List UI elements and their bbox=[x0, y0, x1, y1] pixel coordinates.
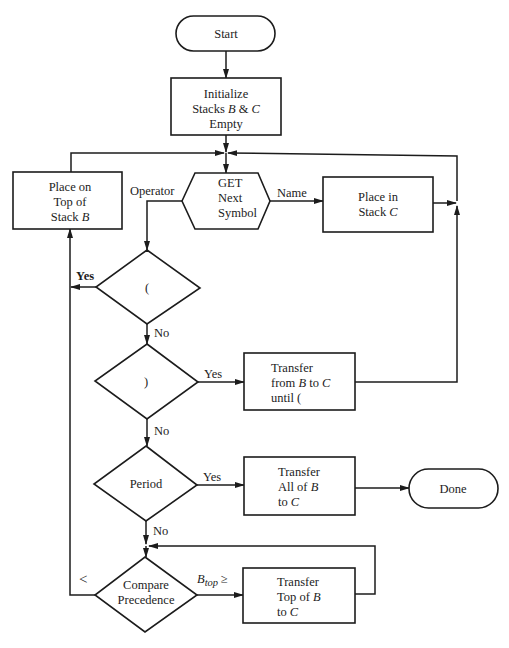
node-done-label: Done bbox=[439, 482, 467, 496]
edge-get-openparen bbox=[147, 201, 182, 250]
node-get-next-symbol: GETNextSymbol bbox=[182, 173, 270, 229]
edge-label-operator: Operator bbox=[130, 184, 175, 198]
node-decision-period: Period bbox=[94, 446, 197, 521]
node-period-label: Period bbox=[130, 477, 163, 491]
label-line-1-seg-2: & bbox=[236, 102, 252, 116]
edge-label-close-no: No bbox=[154, 424, 169, 438]
label-line-1-seg-0: from bbox=[271, 376, 298, 390]
node-transfer-until: Transferfrom B to Cuntil ( bbox=[244, 353, 355, 410]
label-line-2-seg-1: B bbox=[82, 210, 90, 224]
label-line-2-seg-0: to bbox=[277, 605, 290, 619]
btop-op: ≥ bbox=[221, 572, 228, 586]
label-line-0-seg-0: Place on bbox=[49, 180, 92, 194]
node-placeb-label: Place onTop ofStack B bbox=[49, 180, 92, 224]
label-line-1-seg-0: Top of bbox=[277, 590, 313, 604]
edge-label-close-yes: Yes bbox=[204, 367, 222, 381]
label-line-0-seg-0: Period bbox=[130, 477, 163, 491]
label-line-2-seg-0: to bbox=[278, 495, 291, 509]
node-start-label: Start bbox=[214, 27, 238, 41]
label-line-0-seg-0: Transfer bbox=[278, 465, 321, 479]
label-line-0-seg-0: Place in bbox=[358, 190, 399, 204]
label-line-1-seg-3: C bbox=[322, 376, 331, 390]
label-line-0-seg-0: ( bbox=[145, 281, 149, 295]
label-line-1-seg-0: Stack bbox=[358, 205, 389, 219]
edge-label-name: Name bbox=[277, 186, 307, 200]
edge-placeb-junction bbox=[71, 153, 224, 172]
edge-label-less-than: < bbox=[79, 571, 87, 587]
node-decision-close-paren: ) bbox=[95, 344, 198, 419]
label-line-0-seg-0: Initialize bbox=[204, 87, 249, 101]
label-line-1-seg-0: All of bbox=[278, 480, 311, 494]
label-line-0-seg-0: Compare bbox=[123, 578, 169, 592]
label-line-1-seg-2: to bbox=[306, 376, 322, 390]
label-line-0-seg-0: Transfer bbox=[271, 361, 314, 375]
edge-label-open-yes: Yes bbox=[76, 269, 94, 283]
edge-label-btop: Btop≥ bbox=[197, 572, 228, 588]
label-line-1-seg-1: C bbox=[389, 205, 398, 219]
node-decision-compare: ComparePrecedence bbox=[95, 557, 197, 632]
flowchart: Start InitializeStacks B & CEmpty GETNex… bbox=[0, 0, 509, 648]
label-line-0-seg-0: ) bbox=[144, 375, 148, 389]
label-line-2-seg-1: C bbox=[290, 605, 299, 619]
node-place-on-stack-b: Place onTop ofStack B bbox=[13, 172, 122, 229]
node-decision-open-paren: ( bbox=[96, 250, 200, 324]
node-placec-label: Place inStack C bbox=[358, 190, 399, 219]
label-line-2-seg-0: Empty bbox=[209, 117, 243, 131]
edge-label-open-no: No bbox=[154, 326, 169, 340]
label-line-2-seg-0: Stack bbox=[51, 210, 82, 224]
edge-label-period-no: No bbox=[153, 524, 168, 538]
label-line-2-seg-1: C bbox=[291, 495, 300, 509]
label-line-1-seg-0: Precedence bbox=[118, 593, 175, 607]
label-line-1-seg-3: C bbox=[252, 102, 261, 116]
label-line-1-seg-0: Next bbox=[218, 191, 243, 205]
btop-sub: top bbox=[205, 577, 218, 588]
label-line-1-seg-0: Stacks bbox=[192, 102, 228, 116]
node-start: Start bbox=[176, 16, 275, 51]
node-done: Done bbox=[409, 469, 498, 508]
edge-label-period-yes: Yes bbox=[203, 470, 221, 484]
edge-left-placeb bbox=[70, 229, 95, 595]
label-line-2-seg-0: Symbol bbox=[218, 206, 257, 220]
node-initialize: InitializeStacks B & CEmpty bbox=[171, 78, 281, 135]
node-close-paren-label: ) bbox=[144, 375, 148, 389]
label-line-1-seg-1: B bbox=[313, 590, 321, 604]
node-place-in-stack-c: Place inStack C bbox=[323, 177, 433, 232]
node-open-paren-label: ( bbox=[145, 281, 149, 295]
label-line-1-seg-1: B bbox=[311, 480, 319, 494]
label-line-2-seg-0: until ( bbox=[271, 391, 301, 405]
node-transfer-all: TransferAll of Bto C bbox=[244, 457, 355, 515]
label-line-1-seg-0: Top of bbox=[54, 195, 88, 209]
label-line-0-seg-0: GET bbox=[218, 176, 243, 190]
node-transfer-top: TransferTop of Bto C bbox=[243, 568, 355, 623]
label-line-0-seg-0: Transfer bbox=[277, 575, 320, 589]
node-compare-label: ComparePrecedence bbox=[118, 578, 175, 607]
